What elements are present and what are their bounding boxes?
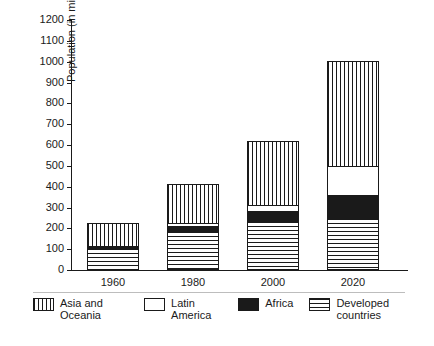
legend-item-label: Asia and Oceania <box>60 297 128 321</box>
x-tick-label: 1960 <box>73 276 153 288</box>
bar-segment <box>167 231 219 270</box>
y-tick-mark <box>67 166 72 167</box>
bar-segment <box>327 61 379 166</box>
y-tick-label: 300 <box>24 201 64 213</box>
x-tick-label: 2000 <box>233 276 313 288</box>
x-tick-label: 1980 <box>153 276 233 288</box>
y-tick-label: 600 <box>24 138 64 150</box>
bar-segment <box>327 166 379 195</box>
bar-segment <box>327 218 379 270</box>
solid-black-swatch <box>238 298 259 311</box>
legend-divider <box>33 292 405 293</box>
legend-item-label: Developed countries <box>336 297 389 321</box>
stacked-bar <box>327 61 379 270</box>
y-tick-label: 1200 <box>24 13 64 25</box>
y-tick-mark <box>67 187 72 188</box>
bar-segment <box>327 195 379 218</box>
stacked-bar <box>167 184 219 270</box>
x-axis-line <box>71 270 408 271</box>
plot-area: Population (in millions) 010020030040050… <box>71 20 408 271</box>
figure-container: Population (in millions) 010020030040050… <box>0 0 434 346</box>
y-tick-mark <box>67 228 72 229</box>
stacked-bar <box>87 223 139 270</box>
bar-segment <box>87 223 139 246</box>
legend-item-label: Latin America <box>171 297 222 321</box>
bar-segment <box>87 248 139 270</box>
y-tick-mark <box>67 124 72 125</box>
legend-item: Developed countries <box>309 297 389 321</box>
bar-segment <box>247 211 299 221</box>
y-tick-mark <box>67 270 72 271</box>
stacked-bar <box>247 141 299 270</box>
y-tick-label: 0 <box>24 263 64 275</box>
legend-item: Asia and Oceania <box>33 297 128 321</box>
y-tick-mark <box>67 208 72 209</box>
horizontal-stripe-swatch <box>309 298 330 311</box>
bar-segment <box>247 221 299 270</box>
blank-swatch <box>144 298 165 311</box>
y-tick-label: 200 <box>24 221 64 233</box>
legend-item: Africa <box>238 297 293 311</box>
y-tick-label: 900 <box>24 76 64 88</box>
legend-item: Latin America <box>144 297 222 321</box>
y-tick-label: 700 <box>24 117 64 129</box>
y-tick-label: 500 <box>24 159 64 171</box>
y-tick-mark <box>67 249 72 250</box>
figure-caption <box>33 337 431 346</box>
bar-segment <box>167 184 219 224</box>
x-tick-label: 2020 <box>313 276 393 288</box>
bar-segment <box>247 141 299 206</box>
chart-legend: Asia and OceaniaLatin AmericaAfricaDevel… <box>33 297 405 327</box>
y-tick-label: 100 <box>24 242 64 254</box>
y-tick-mark <box>67 41 72 42</box>
y-tick-label: 1100 <box>24 34 64 46</box>
y-tick-mark <box>67 103 72 104</box>
vertical-stripe-swatch <box>33 298 54 311</box>
y-tick-mark <box>67 62 72 63</box>
y-tick-mark <box>67 145 72 146</box>
legend-item-label: Africa <box>265 297 293 309</box>
y-tick-label: 1000 <box>24 55 64 67</box>
y-tick-mark <box>67 83 72 84</box>
y-tick-label: 400 <box>24 180 64 192</box>
y-tick-label: 800 <box>24 96 64 108</box>
y-tick-mark <box>67 20 72 21</box>
